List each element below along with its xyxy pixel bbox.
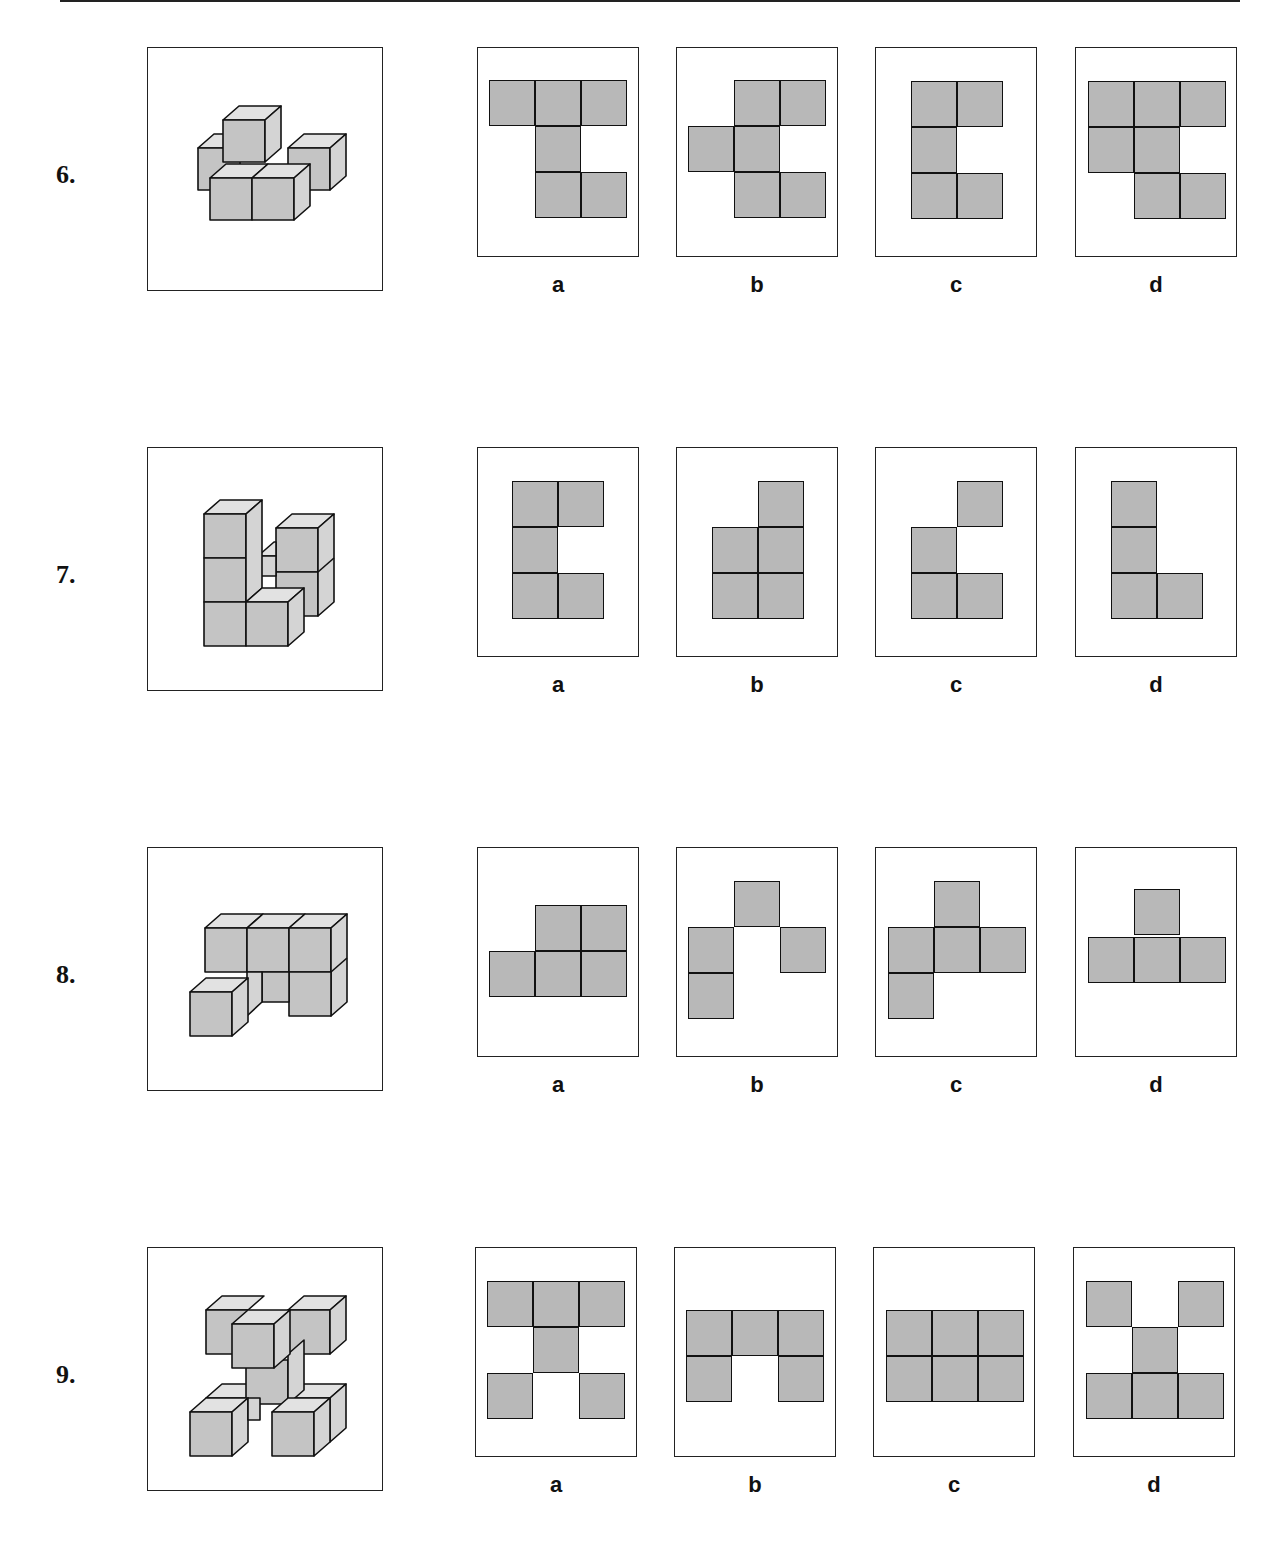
option-8a[interactable] [477, 847, 639, 1057]
option-6b[interactable] [676, 47, 838, 257]
option-9b[interactable] [674, 1247, 836, 1457]
option-label-6c: c [875, 272, 1037, 298]
question-number-8: 8. [56, 960, 76, 990]
option-8b[interactable] [676, 847, 838, 1057]
question-9-figure [147, 1247, 383, 1491]
option-label-8c: c [875, 1072, 1037, 1098]
question-number-7: 7. [56, 560, 76, 590]
option-label-9b: b [674, 1472, 836, 1498]
question-number-6: 6. [56, 160, 76, 190]
option-6a[interactable] [477, 47, 639, 257]
isometric-cubes-icon [148, 848, 384, 1092]
option-label-7a: a [477, 672, 639, 698]
option-9c[interactable] [873, 1247, 1035, 1457]
option-8d[interactable] [1075, 847, 1237, 1057]
option-9d[interactable] [1073, 1247, 1235, 1457]
option-7d[interactable] [1075, 447, 1237, 657]
option-7c[interactable] [875, 447, 1037, 657]
option-label-8a: a [477, 1072, 639, 1098]
question-8-figure [147, 847, 383, 1091]
option-label-8d: d [1075, 1072, 1237, 1098]
option-7b[interactable] [676, 447, 838, 657]
question-7-figure [147, 447, 383, 691]
option-label-6a: a [477, 272, 639, 298]
isometric-cubes-icon [148, 1248, 384, 1492]
isometric-cubes-icon [148, 48, 384, 292]
option-label-9c: c [873, 1472, 1035, 1498]
option-label-6b: b [676, 272, 838, 298]
option-label-9d: d [1073, 1472, 1235, 1498]
option-label-9a: a [475, 1472, 637, 1498]
question-number-9: 9. [56, 1360, 76, 1390]
option-label-6d: d [1075, 272, 1237, 298]
isometric-cubes-icon [148, 448, 384, 692]
option-label-7c: c [875, 672, 1037, 698]
option-6c[interactable] [875, 47, 1037, 257]
option-label-8b: b [676, 1072, 838, 1098]
option-9a[interactable] [475, 1247, 637, 1457]
option-8c[interactable] [875, 847, 1037, 1057]
option-6d[interactable] [1075, 47, 1237, 257]
option-label-7d: d [1075, 672, 1237, 698]
page-top-rule [60, 0, 1240, 2]
option-7a[interactable] [477, 447, 639, 657]
option-label-7b: b [676, 672, 838, 698]
question-6-figure [147, 47, 383, 291]
